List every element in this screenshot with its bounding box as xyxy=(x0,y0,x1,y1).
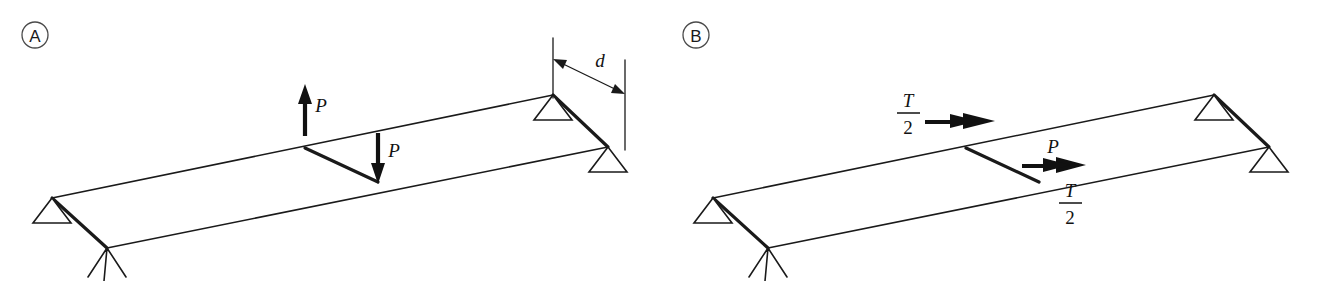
plate-back-edge xyxy=(713,95,1214,198)
dimension-arrow-line xyxy=(557,61,621,92)
panel-a-label-badge: A xyxy=(22,22,48,48)
dimension-d-label: d xyxy=(595,50,605,71)
torque-upper-label: T 2 xyxy=(897,90,920,138)
panel-a-supports xyxy=(33,95,627,281)
panel-b-plate xyxy=(713,95,1269,248)
plate-right-edge xyxy=(553,95,608,147)
engineering-diagram: A P P xyxy=(0,0,1322,281)
torque-lower-denominator: 2 xyxy=(1065,207,1075,228)
panel-b-torque-upper: T 2 xyxy=(897,90,995,138)
torque-upper-numerator: T xyxy=(903,90,915,111)
pin-support-front-left-icon xyxy=(749,248,787,281)
panel-a-plate xyxy=(52,95,608,248)
force-down-label: P xyxy=(387,140,400,161)
torque-upper-denominator: 2 xyxy=(903,117,913,138)
plate-front-edge xyxy=(107,147,608,248)
panel-b: B T 2 xyxy=(683,22,1288,281)
torque-lower-numerator: T xyxy=(1065,180,1077,201)
pin-support-front-right-icon xyxy=(1250,147,1288,172)
pin-support-front-right-icon xyxy=(589,147,627,172)
panel-a-letter: A xyxy=(29,27,41,46)
force-p-label: P xyxy=(1046,136,1059,157)
panel-a: A P P xyxy=(22,22,627,281)
panel-b-torque-lower-label: T 2 xyxy=(1059,180,1082,228)
panel-a-dimension-d: d xyxy=(553,38,625,150)
plate-front-edge xyxy=(768,147,1269,248)
force-up-label: P xyxy=(314,95,327,116)
dimension-arrowhead-right xyxy=(611,84,625,94)
dimension-arrowhead-left xyxy=(553,59,567,69)
force-up-arrowhead xyxy=(298,84,312,104)
plate-right-edge xyxy=(1214,95,1269,147)
pin-support-front-left-icon xyxy=(88,248,126,281)
panel-b-letter: B xyxy=(690,27,701,46)
panel-b-force-p: P xyxy=(1022,136,1086,174)
panel-a-crack-line xyxy=(305,148,378,182)
panel-a-force-down: P xyxy=(371,133,400,184)
figure-root: A P P xyxy=(0,0,1322,281)
panel-b-label-badge: B xyxy=(683,22,709,48)
plate-back-edge xyxy=(52,95,553,198)
panel-a-force-up: P xyxy=(298,84,327,136)
panel-b-supports xyxy=(694,95,1288,281)
